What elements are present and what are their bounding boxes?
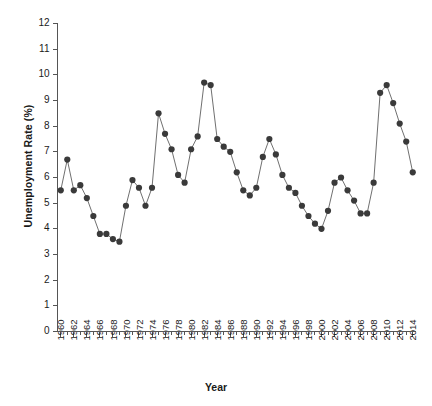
data-point [377, 90, 383, 96]
x-tick-label: 1970 [121, 319, 132, 340]
x-tick-label: 1988 [238, 319, 249, 340]
data-point [279, 172, 285, 178]
x-tick-label: 1964 [81, 319, 92, 340]
y-tick-label: 1 [44, 299, 50, 310]
data-point [168, 146, 174, 152]
data-point [71, 187, 77, 193]
data-point [318, 226, 324, 232]
x-tick-label: 1992 [264, 319, 275, 340]
y-tick-label: 11 [39, 43, 50, 54]
data-point [221, 144, 227, 150]
data-point [201, 79, 207, 85]
data-point [266, 136, 272, 142]
data-point [260, 154, 266, 160]
data-point [64, 156, 70, 162]
x-tick-label: 1984 [212, 319, 223, 340]
x-tick-label: 2014 [407, 319, 418, 340]
x-tick-label: 1966 [94, 319, 105, 340]
data-point [195, 133, 201, 139]
x-tick-label: 2004 [342, 319, 353, 340]
data-point [390, 100, 396, 106]
x-tick-label: 1994 [277, 319, 288, 340]
x-tick-label: 1976 [160, 319, 171, 340]
data-point [403, 138, 409, 144]
data-point [364, 210, 370, 216]
x-tick-label: 2012 [394, 319, 405, 340]
x-tick-label: 2000 [316, 319, 327, 340]
data-point [162, 131, 168, 137]
y-tick-label: 4 [44, 222, 50, 233]
x-tick-label: 1982 [199, 319, 210, 340]
data-point [312, 221, 318, 227]
y-tick-label: 9 [44, 94, 50, 105]
data-point [110, 236, 116, 242]
line-chart-plot: 0123456789101112 19601962196419661968197… [0, 0, 432, 406]
data-point [227, 149, 233, 155]
x-tick-label: 1972 [134, 319, 145, 340]
data-point [136, 185, 142, 191]
data-point [253, 185, 259, 191]
data-point [397, 121, 403, 127]
data-point [188, 146, 194, 152]
data-point [123, 203, 129, 209]
data-point [208, 82, 214, 88]
series-markers-unemployment [58, 79, 416, 244]
y-tick-marks [53, 24, 58, 332]
y-tick-label: 0 [44, 325, 50, 336]
data-point [84, 195, 90, 201]
data-point [149, 185, 155, 191]
data-point [273, 151, 279, 157]
chart-figure: Unemployment Rate (%) 0123456789101112 1… [0, 0, 432, 406]
data-point [182, 180, 188, 186]
data-point [299, 203, 305, 209]
x-tick-label: 1996 [290, 319, 301, 340]
y-tick-label: 3 [44, 248, 50, 259]
data-point [214, 136, 220, 142]
data-point [292, 190, 298, 196]
data-point [103, 231, 109, 237]
x-tick-label: 1980 [186, 319, 197, 340]
data-point [384, 82, 390, 88]
x-tick-label: 1990 [251, 319, 262, 340]
data-point [90, 213, 96, 219]
data-point [331, 180, 337, 186]
data-point [344, 187, 350, 193]
y-tick-label: 10 [38, 68, 50, 79]
x-tick-label: 1974 [147, 319, 158, 340]
x-tick-label: 1998 [303, 319, 314, 340]
data-point [371, 180, 377, 186]
data-point [77, 182, 83, 188]
x-tick-label: 1962 [68, 319, 79, 340]
data-point [240, 187, 246, 193]
x-tick-labels: 1960196219641966196819701972197419761978… [55, 319, 418, 340]
data-point [410, 169, 416, 175]
x-tick-label: 2008 [368, 319, 379, 340]
data-point [116, 239, 122, 245]
x-tick-label: 1968 [108, 319, 119, 340]
y-tick-label: 12 [38, 17, 50, 28]
y-tick-label: 2 [44, 274, 50, 285]
data-point [58, 187, 64, 193]
y-tick-label: 6 [44, 171, 50, 182]
series-line-unemployment [61, 83, 413, 242]
x-tick-label: 1986 [225, 319, 236, 340]
data-point [175, 172, 181, 178]
data-point [338, 174, 344, 180]
x-axis-title: Year [0, 381, 432, 393]
x-tick-label: 2006 [355, 319, 366, 340]
y-tick-label: 7 [44, 145, 50, 156]
y-tick-labels: 0123456789101112 [38, 17, 50, 336]
data-point [155, 110, 161, 116]
data-point [97, 231, 103, 237]
y-tick-label: 5 [44, 197, 50, 208]
data-point [351, 198, 357, 204]
data-point [142, 203, 148, 209]
y-tick-label: 8 [44, 120, 50, 131]
data-point [247, 192, 253, 198]
x-tick-label: 2002 [329, 319, 340, 340]
data-point [286, 185, 292, 191]
data-point [325, 208, 331, 214]
data-point [305, 213, 311, 219]
data-point [358, 210, 364, 216]
x-tick-label: 2010 [381, 319, 392, 340]
